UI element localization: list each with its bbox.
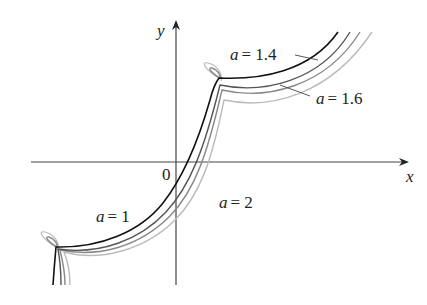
origin-label: 0 (162, 165, 171, 184)
curve-a-1.4 (58, 32, 350, 285)
curve-a-1 (53, 32, 338, 285)
cusp-loops (41, 63, 221, 250)
annotation-a-2: a= 2 (219, 193, 253, 212)
y-axis-label: y (155, 21, 165, 40)
x-axis-label: x (405, 167, 414, 186)
chart: y x 0 a= 1 a= 1.4 a= 1.6 a= 2 (0, 0, 427, 305)
annotation-a-1: a= 1 (96, 207, 130, 226)
annotation-a-1.6: a= 1.6 (316, 89, 363, 108)
annotation-a-1.4: a= 1.4 (230, 45, 277, 64)
